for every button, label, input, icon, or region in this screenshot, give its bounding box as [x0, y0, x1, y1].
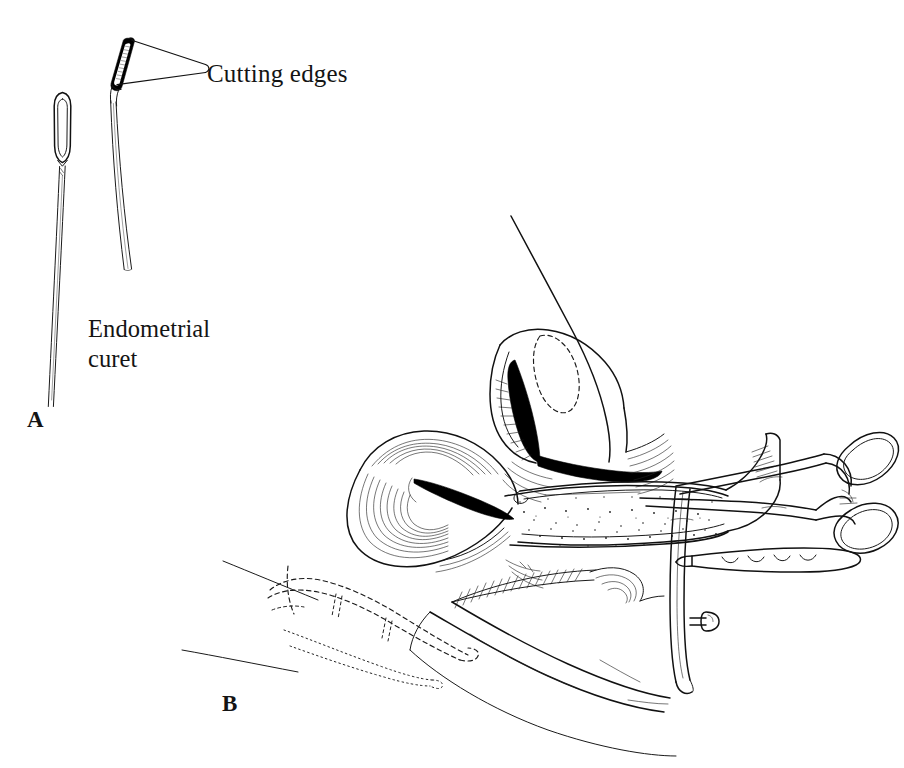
- endometrial-curet-label-line1: Endometrial: [88, 315, 210, 342]
- figure-root: Cutting edges Endometrialcuret A B: [0, 0, 904, 768]
- endometrial-curet-label-line2: curet: [88, 345, 137, 372]
- panel-label-a: A: [27, 406, 44, 434]
- cutting-edges-callout: Cutting edges: [207, 59, 348, 90]
- endometrial-curet-label: Endometrialcuret: [88, 314, 210, 374]
- illustration-canvas: [0, 0, 904, 768]
- panel-label-b: B: [222, 690, 237, 718]
- page-background: [0, 0, 904, 768]
